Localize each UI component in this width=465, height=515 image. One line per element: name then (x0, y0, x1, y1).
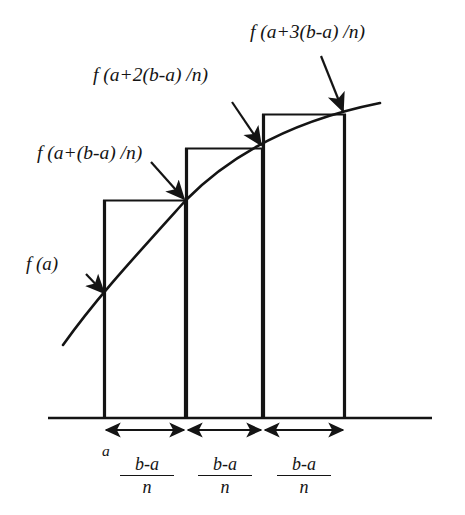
label-f-a-1: f (a+(b-a) /n) (37, 143, 142, 163)
figure-canvas: f (a+3(b-a) /n) f (a+2(b-a) /n) f (a+(b-… (0, 0, 465, 515)
interval-label-2: b-a n (198, 455, 252, 497)
interval-denominator-2: n (198, 476, 252, 497)
interval-label-3: b-a n (277, 455, 331, 497)
interval-numerator-1: b-a (120, 455, 174, 476)
riemann-sum-diagram (0, 0, 465, 515)
interval-denominator-3: n (277, 476, 331, 497)
interval-numerator-3: b-a (277, 455, 331, 476)
interval-label-1: b-a n (120, 455, 174, 497)
label-axis-point-a: a (102, 443, 110, 459)
label-f-a-2: f (a+2(b-a) /n) (93, 65, 208, 85)
function-curve (63, 103, 380, 345)
arrow-f-a-2 (232, 102, 261, 145)
arrow-f-a-3 (321, 56, 343, 111)
interval-numerator-2: b-a (198, 455, 252, 476)
label-f-a-3: f (a+3(b-a) /n) (250, 22, 365, 42)
arrow-f-a-1 (151, 162, 184, 199)
label-f-a: f (a) (26, 254, 58, 273)
interval-denominator-1: n (120, 476, 174, 497)
rectangle-1 (103, 200, 187, 418)
arrow-f-a (86, 274, 104, 293)
rectangle-3 (262, 114, 346, 418)
